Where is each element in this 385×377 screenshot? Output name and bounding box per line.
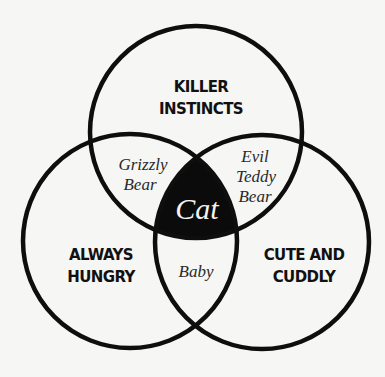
set-label-top-line2: INSTINCTS — [159, 100, 243, 118]
set-label-left-line2: HUNGRY — [67, 268, 136, 286]
intersection-top-right-line1: Evil — [240, 147, 269, 166]
venn-diagram: KILLER INSTINCTS ALWAYS HUNGRY CUTE AND … — [0, 0, 385, 377]
set-label-right-line1: CUTE AND — [264, 246, 345, 264]
intersection-top-right-line2: Teddy — [236, 167, 276, 186]
intersection-top-left-line2: Bear — [123, 175, 156, 194]
intersection-top-right-line3: Bear — [238, 187, 271, 206]
set-label-top-line1: KILLER — [174, 78, 230, 96]
intersection-all: Cat — [175, 192, 219, 225]
set-label-right-line2: CUDDLY — [273, 268, 337, 286]
intersection-left-right: Baby — [179, 262, 214, 281]
intersection-top-left-line1: Grizzly — [118, 155, 168, 174]
set-label-left-line1: ALWAYS — [69, 246, 133, 264]
